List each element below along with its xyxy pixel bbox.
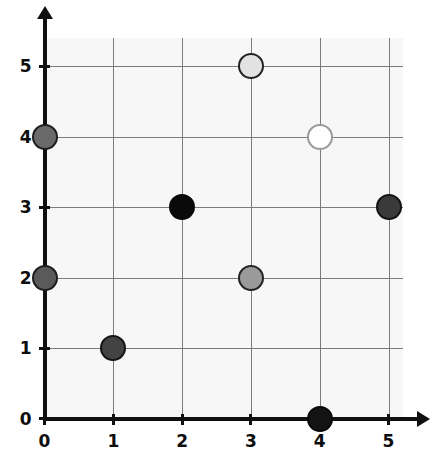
x-tick-label-1: 1 bbox=[107, 433, 119, 450]
y-tick-label-3: 3 bbox=[20, 199, 32, 216]
gridline-vertical-x2 bbox=[182, 38, 183, 419]
point-4-0[interactable] bbox=[307, 406, 333, 432]
y-tick-0 bbox=[39, 417, 50, 420]
y-tick-3 bbox=[39, 206, 50, 209]
point-3-2[interactable] bbox=[238, 265, 264, 291]
y-axis-line bbox=[43, 18, 47, 421]
x-axis-arrow-icon bbox=[417, 411, 430, 427]
x-tick-1 bbox=[112, 414, 115, 425]
x-tick-label-5: 5 bbox=[383, 433, 395, 450]
y-tick-label-5: 5 bbox=[20, 58, 32, 75]
gridline-horizontal-y5 bbox=[45, 66, 403, 67]
x-tick-label-2: 2 bbox=[176, 433, 188, 450]
point-0-4[interactable] bbox=[32, 124, 58, 150]
y-tick-label-0: 0 bbox=[20, 410, 32, 427]
x-tick-label-0: 0 bbox=[39, 433, 51, 450]
y-axis-arrow-icon bbox=[37, 6, 53, 19]
point-0-2[interactable] bbox=[32, 265, 58, 291]
gridline-horizontal-y4 bbox=[45, 137, 403, 138]
x-tick-label-4: 4 bbox=[314, 433, 326, 450]
x-axis-line bbox=[43, 417, 417, 421]
x-tick-5 bbox=[387, 414, 390, 425]
gridline-vertical-x1 bbox=[113, 38, 114, 419]
gridline-vertical-x4 bbox=[320, 38, 321, 419]
y-tick-label-4: 4 bbox=[20, 128, 32, 145]
point-5-3[interactable] bbox=[376, 194, 402, 220]
point-4-4[interactable] bbox=[307, 124, 333, 150]
plot-panel-background bbox=[45, 38, 403, 419]
x-tick-label-3: 3 bbox=[245, 433, 257, 450]
gridline-vertical-x3 bbox=[251, 38, 252, 419]
y-tick-1 bbox=[39, 347, 50, 350]
y-tick-label-1: 1 bbox=[20, 340, 32, 357]
gridline-vertical-x5 bbox=[389, 38, 390, 419]
gridline-horizontal-y3 bbox=[45, 207, 403, 208]
point-2-3[interactable] bbox=[169, 194, 195, 220]
y-tick-label-2: 2 bbox=[20, 269, 32, 286]
x-tick-2 bbox=[181, 414, 184, 425]
gridline-horizontal-y2 bbox=[45, 278, 403, 279]
point-1-1[interactable] bbox=[100, 335, 126, 361]
point-3-5[interactable] bbox=[238, 53, 264, 79]
y-tick-5 bbox=[39, 65, 50, 68]
x-tick-3 bbox=[249, 414, 252, 425]
gridline-horizontal-y1 bbox=[45, 348, 403, 349]
